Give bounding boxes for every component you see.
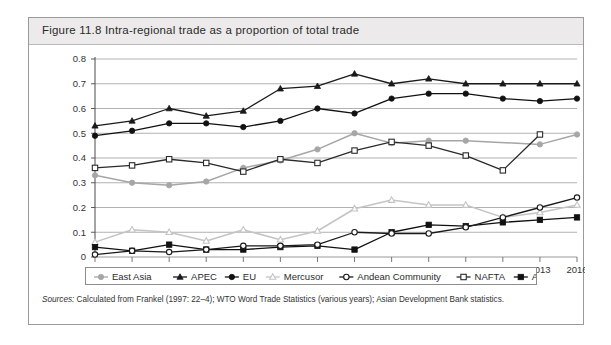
legend-items: East AsiaAPECEUMercusorAndean CommunityN… bbox=[86, 268, 536, 284]
series-marker bbox=[426, 91, 431, 96]
legend-marker bbox=[344, 274, 349, 279]
legend-entry-africa[interactable]: Africa bbox=[514, 271, 536, 282]
series-marker bbox=[389, 139, 394, 144]
series-marker bbox=[129, 163, 134, 168]
series-marker bbox=[463, 138, 468, 143]
series-marker bbox=[537, 217, 542, 222]
series-marker bbox=[352, 111, 357, 116]
series-marker bbox=[351, 71, 357, 77]
x-axis-tick-label: 2016 bbox=[566, 264, 585, 275]
series-marker bbox=[203, 238, 209, 244]
series-marker bbox=[574, 202, 580, 208]
y-axis-tick-label: 0.8 bbox=[73, 53, 86, 64]
series-marker bbox=[166, 183, 171, 188]
series-marker bbox=[204, 179, 209, 184]
sources-note: Sources: Calculated from Frankel (1997: … bbox=[42, 295, 504, 304]
series-marker bbox=[92, 244, 97, 249]
series-marker bbox=[426, 231, 431, 236]
series-marker bbox=[92, 252, 97, 257]
legend-marker bbox=[461, 274, 466, 279]
series-marker bbox=[315, 242, 320, 247]
series-marker bbox=[129, 128, 134, 133]
series-marker bbox=[129, 248, 134, 253]
series-marker bbox=[241, 243, 246, 248]
series-marker bbox=[277, 236, 283, 242]
legend-label: EU bbox=[243, 271, 256, 282]
series-marker bbox=[204, 247, 209, 252]
series-marker bbox=[426, 143, 431, 148]
series-marker bbox=[352, 148, 357, 153]
legend-marker bbox=[229, 274, 234, 279]
series-marker bbox=[463, 202, 469, 208]
series-marker bbox=[574, 132, 579, 137]
legend-entry-eu[interactable]: EU bbox=[225, 271, 256, 282]
series-marker bbox=[204, 160, 209, 165]
series-marker bbox=[315, 160, 320, 165]
series-marker bbox=[500, 168, 505, 173]
series-marker bbox=[574, 96, 579, 101]
series-marker bbox=[574, 195, 579, 200]
series-marker bbox=[426, 202, 432, 208]
figure-container: Figure 11.8 Intra-regional trade as a pr… bbox=[28, 17, 584, 325]
series-marker bbox=[129, 227, 135, 233]
legend-marker bbox=[270, 274, 276, 280]
series-marker bbox=[278, 243, 283, 248]
series-marker bbox=[92, 133, 97, 138]
series-marker bbox=[129, 180, 134, 185]
series-mercusor bbox=[92, 197, 580, 245]
series-marker bbox=[500, 215, 505, 220]
y-axis-tick-label: 0 bbox=[81, 251, 86, 262]
y-axis-tick-label: 0.3 bbox=[73, 177, 86, 188]
series-marker bbox=[537, 142, 542, 147]
legend-label: APEC bbox=[191, 271, 217, 282]
sources-label: Sources: bbox=[42, 295, 74, 304]
legend-label: NAFTA bbox=[475, 271, 506, 282]
series-marker bbox=[166, 121, 171, 126]
legend-entry-east-asia[interactable]: East Asia bbox=[94, 271, 152, 282]
legend-marker bbox=[98, 274, 103, 279]
series-marker bbox=[574, 215, 579, 220]
series-marker bbox=[278, 118, 283, 123]
series-marker bbox=[426, 76, 432, 82]
figure-title: Figure 11.8 Intra-regional trade as a pr… bbox=[42, 24, 359, 36]
series-marker bbox=[92, 173, 97, 178]
series-marker bbox=[166, 105, 172, 111]
chart-legend: East AsiaAPECEUMercusorAndean CommunityN… bbox=[85, 267, 537, 285]
legend-label: East Asia bbox=[112, 271, 152, 282]
series-marker bbox=[315, 147, 320, 152]
legend-entry-mercusor[interactable]: Mercusor bbox=[266, 271, 324, 282]
series-marker bbox=[241, 124, 246, 129]
series-marker bbox=[204, 121, 209, 126]
series-nafta bbox=[92, 132, 542, 175]
y-axis-tick-label: 0.1 bbox=[73, 227, 86, 238]
legend-entry-andean-community[interactable]: Andean Community bbox=[339, 271, 441, 282]
series-marker bbox=[166, 249, 171, 254]
series-marker bbox=[166, 157, 171, 162]
series-marker bbox=[166, 229, 172, 235]
series-marker bbox=[389, 197, 395, 203]
series-marker bbox=[537, 98, 542, 103]
legend-label: Mercusor bbox=[284, 271, 324, 282]
legend-entry-nafta[interactable]: NAFTA bbox=[457, 271, 506, 282]
series-marker bbox=[351, 205, 357, 211]
series-marker bbox=[389, 231, 394, 236]
figure-title-bar: Figure 11.8 Intra-regional trade as a pr… bbox=[29, 18, 583, 45]
sources-text: Calculated from Frankel (1997: 22–4); WT… bbox=[77, 295, 504, 304]
series-marker bbox=[389, 96, 394, 101]
series-marker bbox=[352, 230, 357, 235]
series-marker bbox=[352, 131, 357, 136]
series-marker bbox=[166, 242, 171, 247]
series-marker bbox=[92, 165, 97, 170]
series-marker bbox=[314, 228, 320, 234]
series-marker bbox=[537, 132, 542, 137]
series-marker bbox=[241, 169, 246, 174]
series-marker bbox=[537, 205, 542, 210]
series-marker bbox=[463, 91, 468, 96]
legend-label: Africa bbox=[532, 271, 536, 282]
series-marker bbox=[500, 96, 505, 101]
series-marker bbox=[463, 153, 468, 158]
series-marker bbox=[92, 239, 98, 245]
legend-entry-apec[interactable]: APEC bbox=[173, 271, 217, 282]
legend-label: Andean Community bbox=[357, 271, 441, 282]
y-axis-tick-label: 0.7 bbox=[73, 78, 86, 89]
